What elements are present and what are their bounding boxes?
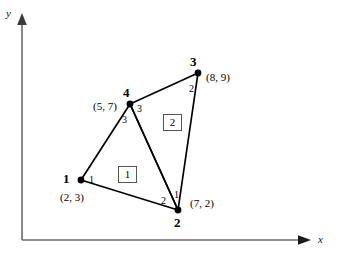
node-coord-1: (2, 3) xyxy=(60,192,84,203)
node-label-4: 4 xyxy=(123,86,130,99)
x-axis-label: x xyxy=(318,234,323,245)
node-label-1: 1 xyxy=(63,172,70,185)
local-node-number-e2-n4: 3 xyxy=(137,104,142,114)
node-dot-2 xyxy=(175,207,182,214)
y-axis-label: y xyxy=(6,8,11,19)
element-box-2: 2 xyxy=(163,114,182,131)
local-node-number-e1-n2: 2 xyxy=(161,196,166,206)
local-node-number-e2-n2: 1 xyxy=(174,190,179,200)
node-coord-3: (8, 9) xyxy=(206,72,230,83)
x-axis-arrowhead xyxy=(298,235,311,245)
node-label-2: 2 xyxy=(174,216,181,229)
local-node-number-e1-n1: 1 xyxy=(89,175,94,185)
node-coord-2: (7, 2) xyxy=(190,198,214,209)
node-label-3: 3 xyxy=(190,55,197,68)
element-2-triangle xyxy=(130,73,198,210)
node-dot-1 xyxy=(78,177,85,184)
node-dot-3 xyxy=(195,70,202,77)
local-node-number-e2-n3: 2 xyxy=(189,84,194,94)
local-node-number-e1-n4: 3 xyxy=(122,115,127,125)
element-box-1: 1 xyxy=(118,166,137,183)
y-axis-arrowhead xyxy=(17,13,27,25)
node-dot-4 xyxy=(127,101,134,108)
node-coord-4: (5, 7) xyxy=(93,101,117,112)
